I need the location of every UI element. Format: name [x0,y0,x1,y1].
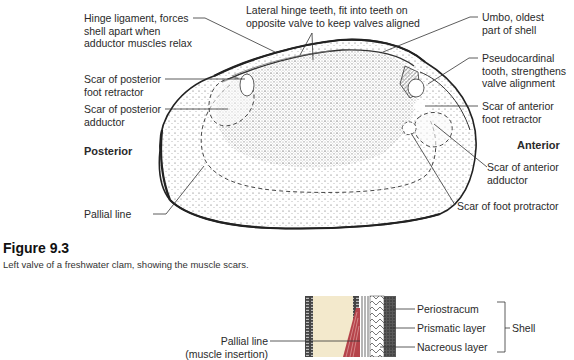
label-anterior: Anterior [517,139,560,152]
label-lateral-hinge-teeth: Lateral hinge teeth, fit into teeth on o… [246,4,420,29]
label-pseudocardinal-tooth: Pseudocardinal tooth, strengthens valve … [482,52,566,90]
label-nacreous-layer: Nacreous layer [417,341,488,354]
label-scar-posterior-foot-retractor: Scar of posterior foot retractor [84,73,161,98]
label-umbo: Umbo, oldest part of shell [482,11,544,36]
label-scar-posterior-adductor: Scar of posterior adductor [84,103,161,128]
label-scar-anterior-foot-retractor: Scar of anterior foot retractor [482,100,554,125]
label-cs-pallial-line: Pallial line (muscle insertion) [178,335,268,360]
label-shell: Shell [512,322,535,335]
label-scar-anterior-adductor: Scar of anterior adductor [487,161,559,186]
figure-caption: Left valve of a freshwater clam, showing… [3,259,249,270]
label-posterior: Posterior [84,145,132,158]
label-prismatic-layer: Prismatic layer [417,322,486,335]
figure-number: Figure 9.3 [3,240,69,256]
label-periostracum: Periostracum [417,303,479,316]
label-scar-foot-protractor: Scar of foot protractor [457,200,559,213]
label-pallial-line: Pallial line [84,208,131,221]
posterior-foot-retractor-scar [240,74,254,96]
label-hinge-ligament: Hinge ligament, forces shell apart when … [84,12,192,50]
shell-cross-section [305,296,396,357]
